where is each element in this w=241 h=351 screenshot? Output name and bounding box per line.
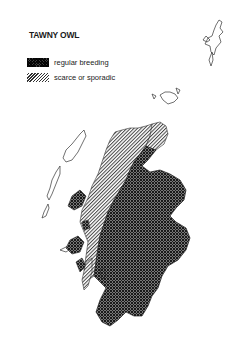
orkney-islands — [152, 88, 180, 104]
scotland-map — [0, 0, 241, 351]
shetland-islands — [203, 20, 223, 66]
